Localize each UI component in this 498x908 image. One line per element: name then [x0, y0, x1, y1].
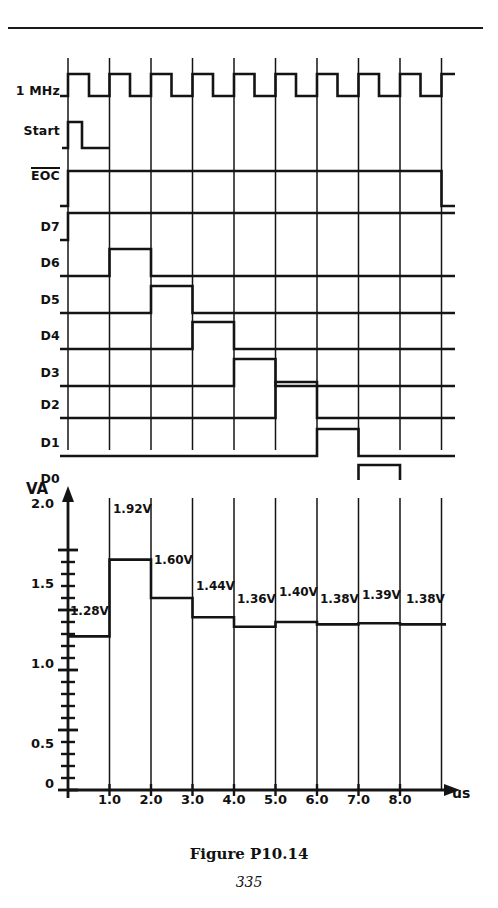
signal-label-d4: D4: [0, 328, 60, 343]
waveform-d1: [60, 429, 455, 456]
voltage-chart: VA 2.0 1.5 1.0 0.5 0 1.0 2.0 3.0 4.0 5.0…: [0, 480, 498, 820]
timing-diagram: 1 MHz Start EOC D7 D6 D5 D4 D3 D2 D1 D0: [0, 30, 498, 480]
page-top-rule: [8, 27, 483, 29]
x-tick-label-3: 3.0: [181, 792, 204, 807]
voltage-chart-svg: [0, 480, 498, 820]
y-tick-label-0: 0: [6, 776, 54, 791]
x-axis-unit-label: us: [452, 785, 470, 801]
signal-label-d2: D2: [0, 397, 60, 412]
step-value-label-5: 1.40V: [279, 585, 318, 599]
x-tick-label-4: 4.0: [222, 792, 245, 807]
step-value-label-7: 1.39V: [362, 588, 401, 602]
signal-label-eoc: EOC: [0, 167, 60, 183]
signal-label-d7: D7: [0, 219, 60, 234]
waveform-d2: [60, 382, 455, 418]
waveform-d0: [60, 465, 455, 480]
waveform-d5: [60, 286, 455, 313]
signal-label-start: Start: [0, 123, 60, 138]
chart-vertical-gridlines: [110, 498, 442, 790]
signal-label-clock: 1 MHz: [0, 83, 60, 98]
y-tick-label-0_5: 0.5: [6, 736, 54, 751]
figure-caption: Figure P10.14: [0, 845, 498, 863]
timing-waveform-svg: [0, 30, 498, 480]
y-tick-label-2: 2.0: [6, 496, 54, 511]
waveform-eoc: [60, 171, 455, 206]
timing-vertical-gridlines: [68, 58, 442, 450]
x-tick-label-7: 7.0: [347, 792, 370, 807]
step-value-label-1: 1.92V: [113, 502, 152, 516]
signal-label-d6: D6: [0, 255, 60, 270]
x-tick-label-6: 6.0: [305, 792, 328, 807]
x-tick-label-5: 5.0: [264, 792, 287, 807]
x-tick-label-2: 2.0: [139, 792, 162, 807]
signal-label-d1: D1: [0, 435, 60, 450]
eoc-overbar-text: EOC: [31, 167, 60, 182]
waveform-start: [62, 122, 110, 148]
waveform-d6: [60, 249, 455, 276]
y-tick-label-1: 1.0: [6, 656, 54, 671]
signal-label-d3: D3: [0, 365, 60, 380]
step-value-label-0: 1.28V: [70, 604, 109, 618]
y-axis: [62, 486, 74, 798]
x-tick-label-8: 8.0: [388, 792, 411, 807]
page-number: 335: [0, 874, 498, 890]
step-value-label-4: 1.36V: [237, 592, 276, 606]
waveform-d3: [60, 359, 455, 386]
y-tick-label-1_5: 1.5: [6, 576, 54, 591]
step-value-label-6: 1.38V: [320, 592, 359, 606]
figure-page: 1 MHz Start EOC D7 D6 D5 D4 D3 D2 D1 D0: [0, 0, 498, 908]
step-value-label-2: 1.60V: [154, 553, 193, 567]
step-value-label-8: 1.38V: [406, 592, 445, 606]
step-value-label-3: 1.44V: [196, 579, 235, 593]
x-tick-label-1: 1.0: [98, 792, 121, 807]
waveform-d7: [60, 213, 455, 240]
signal-label-d5: D5: [0, 292, 60, 307]
waveform-clock: [60, 74, 455, 96]
waveform-d4: [60, 322, 455, 349]
